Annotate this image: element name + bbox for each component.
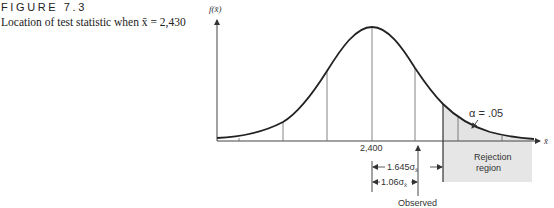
y-axis-label: f(x̄) xyxy=(209,4,222,14)
observed-distance-label: 1.06σx̄ xyxy=(381,177,407,188)
mean-label: 2,400 xyxy=(360,143,383,153)
x-axis-label: x̄ xyxy=(543,136,549,146)
alpha-label: α = .05 xyxy=(469,107,503,119)
normal-distribution-chart: f(x̄) x̄ α = .05 2,400 1.645σx̄ 1.06σx̄ … xyxy=(0,0,554,208)
critical-distance-label: 1.645σx̄ xyxy=(387,162,418,173)
normal-curve xyxy=(217,27,534,139)
observed-label: Observed xyxy=(398,198,437,208)
